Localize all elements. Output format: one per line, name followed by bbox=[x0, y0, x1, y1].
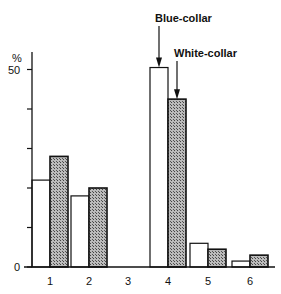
x-tick-label-6: 6 bbox=[247, 275, 253, 287]
bar-white-collar-cat1 bbox=[50, 156, 68, 267]
bar-chart: 500%123456 Blue-collarWhite-collar bbox=[0, 0, 281, 294]
bar-white-collar-cat5 bbox=[208, 249, 226, 267]
x-tick-label-4: 4 bbox=[165, 275, 171, 287]
arrowhead-icon bbox=[156, 58, 162, 68]
y-label-0: 0 bbox=[14, 261, 20, 273]
annotation-white-collar: White-collar bbox=[174, 47, 238, 59]
y-label-50: 50 bbox=[8, 64, 20, 76]
arrowhead-icon bbox=[174, 89, 180, 99]
x-tick-label-1: 1 bbox=[47, 275, 53, 287]
bars-group bbox=[32, 68, 268, 267]
x-tick-label-2: 2 bbox=[86, 275, 92, 287]
bar-white-collar-cat2 bbox=[89, 188, 107, 267]
bar-blue-collar-cat6 bbox=[232, 261, 250, 267]
annotation-blue-collar: Blue-collar bbox=[155, 12, 213, 24]
bar-blue-collar-cat1 bbox=[32, 180, 50, 267]
bar-white-collar-cat6 bbox=[250, 255, 268, 267]
bar-white-collar-cat4 bbox=[168, 99, 186, 267]
x-tick-label-5: 5 bbox=[205, 275, 211, 287]
bar-blue-collar-cat4 bbox=[150, 68, 168, 267]
bar-blue-collar-cat5 bbox=[190, 243, 208, 267]
y-unit-label: % bbox=[12, 52, 22, 64]
bar-blue-collar-cat2 bbox=[71, 196, 89, 267]
x-tick-label-3: 3 bbox=[125, 275, 131, 287]
